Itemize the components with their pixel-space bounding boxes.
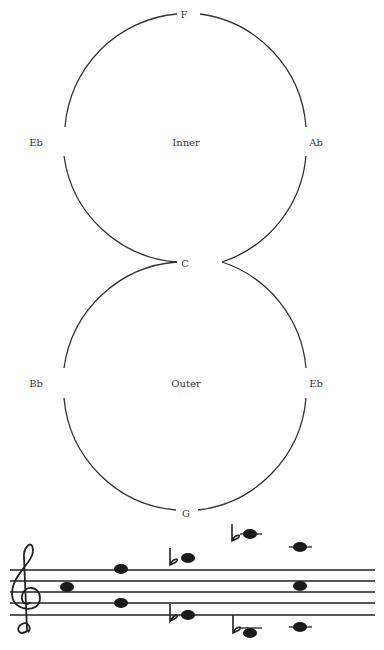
upper-circle-left-lower-arc	[64, 156, 177, 262]
label-e-flat-upper: Eb	[27, 137, 45, 148]
note-head	[60, 582, 74, 592]
flat-icon	[232, 524, 239, 541]
figure-eight-diagram	[0, 0, 384, 650]
note-head	[293, 581, 307, 591]
flat-icon	[233, 615, 240, 633]
music-staff	[10, 570, 375, 615]
notes	[60, 529, 307, 638]
label-b-flat: Bb	[27, 378, 45, 389]
label-e-flat-lower: Eb	[307, 378, 325, 389]
note-head	[114, 598, 128, 608]
label-inner: Inner	[170, 137, 202, 148]
upper-circle-left-arc	[65, 14, 177, 127]
lower-circle-left-lower-arc	[64, 398, 176, 510]
label-outer: Outer	[169, 378, 202, 389]
label-g: G	[180, 508, 192, 519]
note-head	[181, 610, 195, 620]
lower-circle-right-upper-arc	[222, 262, 306, 368]
lower-circle-left-upper-arc	[64, 262, 177, 368]
label-f: F	[179, 9, 190, 20]
treble-clef-icon	[12, 545, 40, 633]
note-head	[114, 564, 128, 574]
label-c: C	[179, 258, 191, 269]
upper-circle-right-arc-top	[200, 14, 306, 127]
label-a-flat: Ab	[307, 137, 325, 148]
flat-icon	[170, 604, 177, 621]
note-head	[181, 553, 195, 563]
flat-signs	[170, 524, 240, 633]
upper-circle-right-lower-arc	[222, 156, 306, 262]
note-head	[243, 628, 257, 638]
lower-circle-right-lower-arc	[198, 398, 306, 510]
flat-icon	[170, 548, 177, 565]
